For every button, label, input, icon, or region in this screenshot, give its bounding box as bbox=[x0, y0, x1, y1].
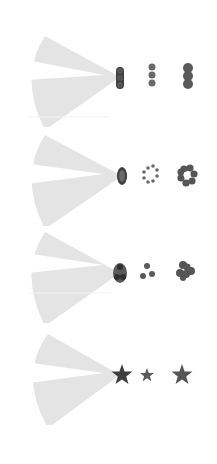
row-dots-vertical bbox=[0, 27, 217, 127]
dotted-ring-icon bbox=[142, 164, 159, 184]
three-blob-cluster-icon bbox=[176, 261, 195, 281]
row-star bbox=[0, 325, 217, 425]
cone-fan bbox=[32, 36, 121, 127]
apex-dotted-ring-icon bbox=[117, 167, 127, 185]
star-small-icon bbox=[140, 368, 154, 381]
row-ring bbox=[0, 126, 217, 226]
cone-fan bbox=[32, 232, 121, 323]
cone-diagram bbox=[0, 223, 217, 323]
cone-diagram bbox=[0, 126, 217, 226]
three-dots-large-icon bbox=[183, 63, 193, 89]
three-dot-cluster-small-icon bbox=[140, 263, 155, 279]
star-large-icon bbox=[172, 364, 193, 384]
three-dots-small-icon bbox=[149, 64, 156, 87]
cone-diagram bbox=[0, 27, 217, 127]
apex-star-icon bbox=[112, 364, 133, 384]
row-triangle-cluster bbox=[0, 223, 217, 323]
cone-diagram bbox=[0, 325, 217, 425]
flower-ring-icon bbox=[177, 164, 197, 186]
apex-three-dots-icon bbox=[116, 67, 124, 89]
apex-three-dot-cluster-icon bbox=[113, 263, 127, 283]
